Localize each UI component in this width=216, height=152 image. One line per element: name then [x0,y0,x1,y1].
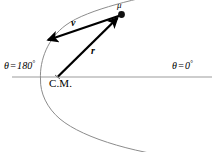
equals-sign-right: = [177,60,185,71]
axis-label-theta-0: θ=0° [172,60,193,71]
trajectory-curve-lower [40,79,200,152]
center-of-mass-label: C.M. [49,78,72,89]
equals-sign-left: = [9,60,17,71]
particle-label-mu: μ [117,1,122,10]
orbit-diagram-figure: θ=180° θ=0° μ v r C.M. [0,0,216,152]
vector-label-v: v [71,18,75,28]
axis-label-theta-180: θ=180° [4,60,36,71]
theta-value-left: 180 [17,60,33,71]
degree-symbol-left: ° [33,59,36,67]
degree-symbol-right: ° [190,59,193,67]
diagram-canvas [0,0,216,152]
particle-dot-icon [118,11,125,18]
vector-label-r: r [91,46,95,56]
trajectory-curve-upper [40,0,178,79]
